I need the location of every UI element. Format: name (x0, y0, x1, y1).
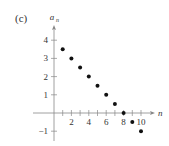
x-tick-label: 6 (104, 117, 109, 127)
data-point (96, 84, 100, 88)
labels: 2468104321−1(c)nan (15, 12, 163, 136)
y-tick-label: 1 (44, 90, 49, 100)
data-point (113, 102, 117, 106)
data-point (122, 111, 126, 115)
y-tick-label: 2 (44, 72, 49, 82)
data-point (61, 47, 65, 51)
x-axis-label: n (158, 108, 163, 118)
data-point (78, 66, 82, 70)
data-point (87, 75, 91, 79)
data-point (69, 56, 73, 60)
data-point (130, 120, 134, 124)
y-axis-label: a (50, 12, 55, 22)
y-axis-label-subscript: n (56, 17, 59, 23)
sequence-scatter-plot: 2468104321−1(c)nan (0, 0, 169, 146)
x-tick-label: 2 (69, 117, 74, 127)
panel-label: (c) (15, 12, 28, 25)
data-point (104, 93, 108, 97)
y-tick-label: 3 (44, 53, 49, 63)
y-tick-label: 4 (44, 35, 49, 45)
x-tick-label: 8 (121, 117, 126, 127)
x-tick-label: 4 (87, 117, 92, 127)
data-point (139, 129, 143, 133)
y-tick-label: −1 (38, 126, 48, 136)
x-tick-label: 10 (137, 117, 147, 127)
